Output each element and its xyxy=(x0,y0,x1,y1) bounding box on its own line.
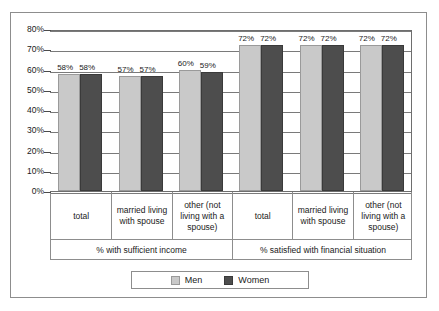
chart-plot-wrapper: 80%70%60%50%40%30%20%10%0% 58%58%57%57%6… xyxy=(11,13,428,299)
y-axis-tick-label: 50% xyxy=(10,86,44,95)
y-axis-tick-label: 60% xyxy=(10,66,44,75)
gridline xyxy=(50,112,411,113)
y-axis-tick-label: 80% xyxy=(10,25,44,34)
y-axis-tick-label: 30% xyxy=(10,126,44,135)
category-label-row: totalmarried living with spouseother (no… xyxy=(50,192,412,240)
gridline xyxy=(50,51,411,52)
category-label: total xyxy=(51,192,111,240)
bar-group: 60%59% xyxy=(179,29,223,191)
bar-men xyxy=(58,74,80,191)
legend-label: Women xyxy=(238,275,269,285)
gridline xyxy=(50,92,411,93)
gridline xyxy=(50,132,411,133)
gridline xyxy=(50,153,411,154)
bar-men xyxy=(179,70,201,192)
y-axis-tick-label: 0% xyxy=(10,187,44,196)
y-axis-tick-label: 40% xyxy=(10,106,44,115)
bar-men xyxy=(300,45,322,191)
y-axis-tick-mark xyxy=(44,111,51,112)
y-axis-tick-mark xyxy=(44,152,51,153)
gridline xyxy=(50,173,411,174)
bar-men xyxy=(360,45,382,191)
y-axis-tick-label: 20% xyxy=(10,147,44,156)
group-header-row: % with sufficient income% satisfied with… xyxy=(50,240,412,260)
y-axis-tick-label: 10% xyxy=(10,167,44,176)
group-header: % with sufficient income xyxy=(51,240,232,260)
group-header: % satisfied with financial situation xyxy=(232,240,413,260)
bar-value-label: 57% xyxy=(118,65,134,74)
category-label: total xyxy=(232,192,292,240)
bar-men xyxy=(119,76,141,191)
y-axis-tick-mark xyxy=(44,50,51,51)
legend-item-men[interactable]: Men xyxy=(171,275,203,285)
y-axis-tick-mark xyxy=(44,172,51,173)
bar-value-label: 72% xyxy=(381,34,397,43)
bar-value-label: 72% xyxy=(260,34,276,43)
plot-area: 58%58%57%57%60%59%72%72%72%72%72%72% xyxy=(50,30,412,192)
gridline xyxy=(50,72,411,73)
bar-value-label: 72% xyxy=(321,34,337,43)
y-axis-tick-mark xyxy=(44,192,51,193)
y-axis-tick-mark xyxy=(44,30,51,31)
legend-item-women[interactable]: Women xyxy=(224,275,269,285)
bar-group: 72%72% xyxy=(360,29,404,191)
bar-women xyxy=(80,74,102,191)
category-label: other (not living with a spouse) xyxy=(353,192,413,240)
legend-swatch-icon xyxy=(224,276,233,285)
category-label: married living with spouse xyxy=(111,192,171,240)
y-axis-tick-mark xyxy=(44,131,51,132)
y-axis: 80%70%60%50%40%30%20%10%0% xyxy=(9,13,44,213)
y-axis-tick-label: 70% xyxy=(10,45,44,54)
bar-women xyxy=(382,45,404,191)
bar-value-label: 58% xyxy=(79,63,95,72)
gridline xyxy=(50,31,411,32)
bar-value-label: 72% xyxy=(299,34,315,43)
bar-women xyxy=(201,72,223,191)
chart-frame: 80%70%60%50%40%30%20%10%0% 58%58%57%57%6… xyxy=(10,12,427,298)
bar-value-label: 58% xyxy=(57,63,73,72)
bar-value-label: 57% xyxy=(140,65,156,74)
bar-value-label: 59% xyxy=(200,61,216,70)
bar-women xyxy=(322,45,344,191)
bar-group: 72%72% xyxy=(300,29,344,191)
legend-label: Men xyxy=(185,275,203,285)
category-label: other (not living with a spouse) xyxy=(172,192,232,240)
bar-group: 58%58% xyxy=(58,29,102,191)
y-axis-tick-mark xyxy=(44,91,51,92)
bar-women xyxy=(261,45,283,191)
chart-legend: MenWomen xyxy=(131,271,309,289)
legend-swatch-icon xyxy=(171,276,180,285)
category-label: married living with spouse xyxy=(292,192,352,240)
bar-group: 72%72% xyxy=(239,29,283,191)
bar-women xyxy=(141,76,163,191)
bar-men xyxy=(239,45,261,191)
y-axis-tick-mark xyxy=(44,71,51,72)
bar-value-label: 60% xyxy=(178,59,194,68)
bar-group: 57%57% xyxy=(119,29,163,191)
bar-value-label: 72% xyxy=(238,34,254,43)
bar-value-label: 72% xyxy=(359,34,375,43)
